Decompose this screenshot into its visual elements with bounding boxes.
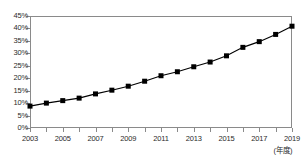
x-tick-label: 2005 bbox=[48, 135, 78, 143]
y-tick-label: 45% bbox=[2, 12, 28, 20]
y-tick-label: 30% bbox=[2, 49, 28, 57]
x-tick-mark bbox=[128, 128, 129, 132]
x-tick-mark bbox=[112, 128, 113, 132]
y-tick-label: 40% bbox=[2, 24, 28, 32]
y-tick-label: 15% bbox=[2, 87, 28, 95]
y-tick-label: 35% bbox=[2, 37, 28, 45]
chart-screenshot: 0%5%10%15%20%25%30%35%40%45% 20032005200… bbox=[0, 0, 305, 162]
x-tick-label: 2011 bbox=[146, 135, 176, 143]
y-tick-label: 25% bbox=[2, 62, 28, 70]
x-tick-label: 2019 bbox=[277, 135, 305, 143]
x-tick-label: 2017 bbox=[244, 135, 274, 143]
x-tick-mark bbox=[177, 128, 178, 132]
x-axis-unit-label: (年度) bbox=[262, 147, 304, 155]
x-tick-mark bbox=[145, 128, 146, 132]
x-tick-label: 2015 bbox=[212, 135, 242, 143]
x-tick-mark bbox=[243, 128, 244, 132]
x-tick-mark bbox=[259, 128, 260, 132]
x-tick-label: 2003 bbox=[15, 135, 45, 143]
y-tick-label: 5% bbox=[2, 112, 28, 120]
x-tick-mark bbox=[161, 128, 162, 132]
x-tick-mark bbox=[96, 128, 97, 132]
x-tick-mark bbox=[30, 128, 31, 132]
x-tick-mark bbox=[227, 128, 228, 132]
x-tick-label: 2007 bbox=[81, 135, 111, 143]
x-tick-mark bbox=[210, 128, 211, 132]
x-tick-mark bbox=[46, 128, 47, 132]
y-tick-label: 20% bbox=[2, 74, 28, 82]
line-chart: 0%5%10%15%20%25%30%35%40%45% 20032005200… bbox=[0, 0, 305, 162]
x-tick-mark bbox=[79, 128, 80, 132]
x-tick-mark bbox=[276, 128, 277, 132]
x-tick-mark bbox=[292, 128, 293, 132]
y-tick-label: 10% bbox=[2, 99, 28, 107]
x-tick-label: 2009 bbox=[113, 135, 143, 143]
plot-area bbox=[30, 16, 292, 128]
x-tick-mark bbox=[63, 128, 64, 132]
x-tick-mark bbox=[194, 128, 195, 132]
y-tick-label: 0% bbox=[2, 124, 28, 132]
x-tick-label: 2013 bbox=[179, 135, 209, 143]
